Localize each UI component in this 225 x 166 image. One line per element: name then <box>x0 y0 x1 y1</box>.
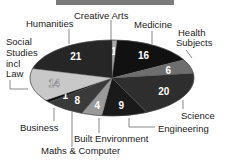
label-social-2: Studies <box>6 48 38 58</box>
label-social-1: Social <box>6 37 32 47</box>
slice-value-label: 14 <box>48 78 60 89</box>
label-science: Science <box>181 111 215 121</box>
label-business: Business <box>20 123 59 133</box>
slice-value-label: 9 <box>118 100 124 111</box>
label-built-environment: Built Environment <box>74 134 148 144</box>
leader-line <box>10 80 28 89</box>
label-engineering: Engineering <box>158 124 209 134</box>
label-creative-arts: Creative Arts <box>74 11 128 21</box>
label-social-4: Law <box>6 69 23 79</box>
label-humanities: Humanities <box>26 19 74 29</box>
slice-value-label: 6 <box>165 65 171 76</box>
slice-value-label: 20 <box>158 86 170 97</box>
label-health-2: Subjects <box>176 38 212 48</box>
label-medicine: Medicine <box>134 20 172 30</box>
slice-value-label: 4 <box>95 100 101 111</box>
slice-value-label: 21 <box>70 51 82 62</box>
slice-value-label: 16 <box>138 50 150 61</box>
leader-line <box>186 50 192 58</box>
label-maths-computer: Maths & Computer <box>41 146 120 156</box>
leader-line <box>129 118 155 127</box>
slice-value-label: 8 <box>75 95 81 106</box>
